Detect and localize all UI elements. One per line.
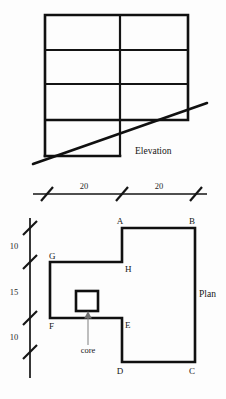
vertical-dimension-label-top: 10: [10, 241, 19, 251]
horizontal-dimension-label-bay-2: 20: [155, 181, 164, 191]
plan-vertex-label-A: A: [117, 216, 124, 226]
vertical-dimension-label-middle: 15: [10, 287, 19, 297]
plan-vertex-label-H: H: [125, 264, 132, 274]
plan-vertex-label-G: G: [49, 251, 56, 261]
plan-core-square: [76, 291, 98, 311]
plan-vertex-label-D: D: [117, 366, 124, 376]
architectural-drawing-sheet: Elevation 20 20 10 15 10: [0, 0, 226, 399]
horizontal-dimension-label-bay-1: 20: [80, 181, 89, 191]
plan-vertex-label-B: B: [189, 216, 195, 226]
horizontal-dimension-string: 20 20: [33, 181, 207, 201]
plan-vertex-label-F: F: [49, 321, 54, 331]
elevation-title: Elevation: [135, 146, 172, 156]
elevation-drawing: Elevation: [33, 15, 207, 164]
vertical-dimension-label-bottom: 10: [10, 332, 19, 342]
plan-title: Plan: [199, 289, 216, 299]
plan-vertex-label-C: C: [189, 366, 195, 376]
plan-vertex-label-E: E: [125, 320, 131, 330]
plan-core-label: core: [81, 345, 96, 355]
drawing-canvas: Elevation 20 20 10 15 10: [0, 0, 226, 399]
plan-drawing: core A B C D E F G H Plan: [49, 216, 216, 376]
vertical-dimension-string: 10 15 10: [10, 218, 37, 378]
plan-outline: [50, 228, 195, 362]
